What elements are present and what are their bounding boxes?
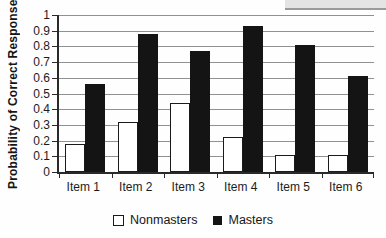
x-tick-mark — [269, 174, 270, 178]
x-tick-mark — [373, 174, 374, 178]
x-axis-label: Item 6 — [320, 180, 373, 194]
x-axis-label: Item 2 — [110, 180, 163, 194]
gridline — [59, 31, 374, 32]
y-tick-label: 0 — [14, 166, 50, 178]
y-tick-label: 0.2 — [14, 135, 50, 147]
x-axis-label: Item 4 — [215, 180, 268, 194]
x-tick-mark — [59, 174, 60, 178]
bar-nonmasters-3 — [170, 103, 190, 172]
gridline — [59, 46, 374, 47]
legend-label-masters: Masters — [228, 213, 272, 227]
legend-item-masters: Masters — [213, 213, 272, 227]
bar-masters-1 — [85, 84, 105, 172]
x-tick-mark — [112, 174, 113, 178]
y-tick-label: 0.9 — [14, 25, 50, 37]
y-tick-mark — [52, 109, 59, 110]
bar-nonmasters-6 — [328, 155, 348, 172]
x-tick-mark — [217, 174, 218, 178]
gridline — [59, 156, 374, 157]
y-tick-label: 0.3 — [14, 119, 50, 131]
bar-nonmasters-4 — [223, 137, 243, 172]
y-tick-mark — [52, 62, 59, 63]
plot-area — [57, 15, 374, 174]
bar-masters-4 — [243, 26, 263, 172]
grouped-bar-chart: Probability of Correct Response 10.90.80… — [0, 0, 386, 238]
y-tick-mark — [52, 15, 59, 16]
y-tick-label: 0.6 — [14, 72, 50, 84]
bar-masters-3 — [190, 51, 210, 172]
y-tick-label: 0.5 — [14, 88, 50, 100]
bar-masters-6 — [348, 76, 368, 172]
y-tick-mark — [52, 125, 59, 126]
bar-masters-5 — [295, 45, 315, 172]
bar-nonmasters-5 — [275, 155, 295, 172]
legend-label-nonmasters: Nonmasters — [130, 213, 197, 227]
y-tick-label: 0.7 — [14, 56, 50, 68]
gridline — [59, 109, 374, 110]
nonmasters-swatch-icon — [113, 215, 124, 226]
y-tick-mark — [52, 31, 59, 32]
gridline — [59, 62, 374, 63]
x-axis-label: Item 5 — [267, 180, 320, 194]
x-tick-mark — [322, 174, 323, 178]
gridline — [59, 125, 374, 126]
y-tick-mark — [52, 141, 59, 142]
y-tick-mark — [52, 78, 59, 79]
y-tick-mark — [52, 94, 59, 95]
bar-nonmasters-2 — [118, 122, 138, 172]
x-axis-label: Item 1 — [57, 180, 110, 194]
bar-nonmasters-1 — [65, 144, 85, 172]
y-tick-mark — [52, 156, 59, 157]
gridline — [59, 78, 374, 79]
y-tick-mark — [52, 46, 59, 47]
y-tick-label: 1 — [14, 9, 50, 21]
legend: Nonmasters Masters — [0, 211, 386, 229]
y-tick-label: 0.1 — [14, 150, 50, 162]
gridline — [59, 15, 374, 16]
x-tick-mark — [164, 174, 165, 178]
y-tick-label: 0.4 — [14, 103, 50, 115]
gridline — [59, 94, 374, 95]
legend-item-nonmasters: Nonmasters — [113, 213, 197, 227]
x-axis-label: Item 3 — [162, 180, 215, 194]
y-tick-label: 0.8 — [14, 40, 50, 52]
masters-swatch-icon — [213, 216, 222, 225]
scanned-bar-chart-figure: Probability of Correct Response 10.90.80… — [0, 0, 386, 238]
bar-masters-2 — [138, 34, 158, 172]
gridline — [59, 141, 374, 142]
y-tick-mark — [52, 172, 59, 173]
